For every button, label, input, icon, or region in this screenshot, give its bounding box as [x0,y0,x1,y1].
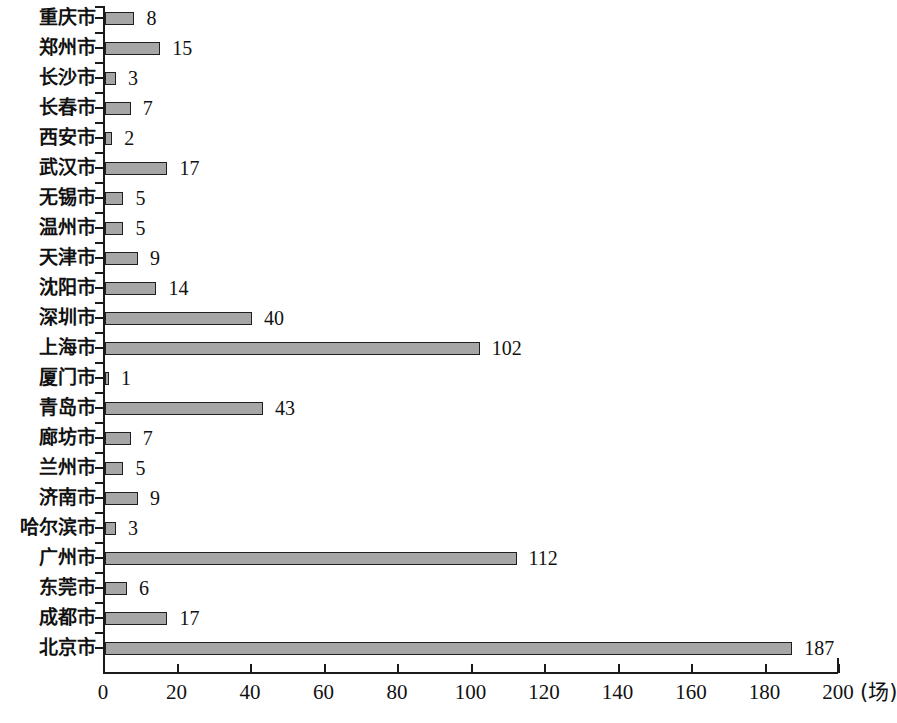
y-axis-minor-tick [95,122,103,124]
bar-value-label: 17 [179,158,199,178]
y-axis-minor-tick [95,482,103,484]
bar-value-label: 40 [264,308,284,328]
bar-value-label: 7 [143,98,153,118]
y-axis-minor-tick [95,542,103,544]
category-label: 沈阳市 [0,278,96,297]
category-label: 无锡市 [0,188,96,207]
category-label: 成都市 [0,608,96,627]
x-axis-unit-label: (场) [860,682,897,703]
bar [105,642,792,655]
x-axis-tick-label: 40 [240,682,261,703]
y-axis-tick [95,317,103,319]
bar [105,552,517,565]
y-axis-tick [95,617,103,619]
x-axis-tick-label: 180 [749,682,781,703]
category-label: 上海市 [0,338,96,357]
y-axis-minor-tick [95,602,103,604]
bar [105,42,160,55]
category-label: 厦门市 [0,368,96,387]
bar-value-label: 5 [135,218,145,238]
bar [105,282,156,295]
category-axis-labels: 重庆市郑州市长沙市长春市西安市武汉市无锡市温州市天津市沈阳市深圳市上海市厦门市青… [0,0,96,680]
bar [105,222,123,235]
y-axis-tick [95,647,103,649]
category-label: 广州市 [0,548,96,567]
category-label: 北京市 [0,638,96,657]
bar [105,192,123,205]
x-axis-tick [618,664,620,673]
bar-value-label: 8 [146,8,156,28]
category-label: 哈尔滨市 [0,518,96,537]
x-axis-tick-label: 20 [166,682,187,703]
y-axis-tick [95,197,103,199]
y-axis-tick [95,287,103,289]
category-label: 长沙市 [0,68,96,87]
x-axis-tick-label: 60 [313,682,334,703]
category-label: 武汉市 [0,158,96,177]
category-label: 重庆市 [0,8,96,27]
x-axis-tick [250,664,252,673]
y-axis-minor-tick [95,302,103,304]
category-label: 廊坊市 [0,428,96,447]
bar-value-label: 3 [128,68,138,88]
x-axis-tick [838,664,840,673]
y-axis-minor-tick [95,512,103,514]
x-axis-tick-label: 100 [455,682,487,703]
category-label: 长春市 [0,98,96,117]
bar-value-label: 9 [150,488,160,508]
category-label: 东莞市 [0,578,96,597]
bar [105,342,480,355]
x-axis-tick [103,664,105,673]
y-axis-minor-tick [95,152,103,154]
y-axis-minor-tick [95,572,103,574]
y-axis-minor-tick [95,182,103,184]
x-axis-tick [471,664,473,673]
x-axis-tick-label: 80 [387,682,408,703]
y-axis-top-cap [95,6,103,8]
y-axis-tick [95,407,103,409]
y-axis-tick [95,167,103,169]
x-axis-tick [765,664,767,673]
y-axis-tick [95,227,103,229]
bar [105,582,127,595]
category-label: 兰州市 [0,458,96,477]
y-axis-minor-tick [95,452,103,454]
y-axis-tick [95,587,103,589]
y-axis-minor-tick [95,392,103,394]
x-axis-tick-label: 160 [675,682,707,703]
x-axis-tick-label: 120 [528,682,560,703]
bar-value-label: 5 [135,458,145,478]
y-axis-tick [95,47,103,49]
y-axis-tick [95,17,103,19]
bar-value-label: 17 [179,608,199,628]
y-axis-minor-tick [95,242,103,244]
category-label: 西安市 [0,128,96,147]
y-axis-tick [95,107,103,109]
y-axis-minor-tick [95,62,103,64]
category-label: 天津市 [0,248,96,267]
category-label: 济南市 [0,488,96,507]
x-axis-tick [691,664,693,673]
bar [105,402,263,415]
y-axis-minor-tick [95,362,103,364]
bar-value-label: 187 [804,638,834,658]
x-axis-tick [177,664,179,673]
y-axis-minor-tick [95,212,103,214]
y-axis-tick [95,77,103,79]
bar-value-label: 5 [135,188,145,208]
y-axis-tick [95,257,103,259]
bar [105,492,138,505]
y-axis-minor-tick [95,632,103,634]
x-axis-tick [544,664,546,673]
bar-value-label: 102 [492,338,522,358]
bar [105,312,252,325]
x-axis-tick-label: 140 [602,682,634,703]
y-axis-tick [95,137,103,139]
bar [105,12,134,25]
category-label: 郑州市 [0,38,96,57]
bar [105,522,116,535]
y-axis-minor-tick [95,32,103,34]
bar-value-label: 9 [150,248,160,268]
bar-value-label: 6 [139,578,149,598]
